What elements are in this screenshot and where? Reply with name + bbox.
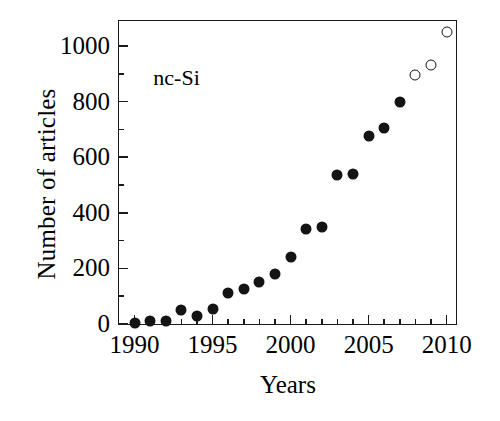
x-axis-minor-tick xyxy=(305,319,307,324)
data-point xyxy=(270,268,281,279)
data-point xyxy=(348,168,359,179)
x-axis-major-tick xyxy=(212,315,214,324)
x-axis-minor-tick xyxy=(181,319,183,324)
y-axis-minor-tick xyxy=(119,184,124,186)
x-axis-minor-tick xyxy=(274,319,276,324)
y-axis-tick-label: 800 xyxy=(73,88,111,116)
x-axis-minor-tick xyxy=(321,319,323,324)
figure-nc-si-articles: Number of articles Years nc-Si 020040060… xyxy=(0,0,500,421)
y-axis-tick-label: 0 xyxy=(98,310,111,338)
x-axis-minor-tick xyxy=(337,319,339,324)
data-point xyxy=(238,284,249,295)
y-axis-major-tick xyxy=(119,323,128,325)
data-point xyxy=(192,311,203,322)
y-axis-major-tick xyxy=(119,212,128,214)
data-point xyxy=(160,316,171,327)
y-axis-tick-label: 1000 xyxy=(60,32,110,60)
y-axis-title: Number of articles xyxy=(33,44,61,324)
y-axis-major-tick xyxy=(119,101,128,103)
data-point xyxy=(301,224,312,235)
x-axis-minor-tick xyxy=(259,319,261,324)
x-axis-major-tick xyxy=(368,315,370,324)
x-axis-minor-tick xyxy=(415,319,417,324)
data-point xyxy=(176,305,187,316)
x-axis-major-tick xyxy=(446,315,448,324)
x-axis-tick-label: 2005 xyxy=(344,331,394,359)
x-axis-tick-label: 1995 xyxy=(188,331,238,359)
plot-area: nc-Si 0200400600800100019901995200020052… xyxy=(118,20,457,325)
x-axis-minor-tick xyxy=(383,319,385,324)
data-point xyxy=(426,60,437,71)
data-point xyxy=(254,276,265,287)
data-point xyxy=(223,288,234,299)
y-axis-tick-label: 200 xyxy=(73,254,111,282)
data-point xyxy=(441,27,452,38)
data-point xyxy=(145,315,156,326)
y-axis-minor-tick xyxy=(119,240,124,242)
y-axis-major-tick xyxy=(119,268,128,270)
data-point xyxy=(379,123,390,134)
x-axis-major-tick xyxy=(290,315,292,324)
y-axis-tick-label: 600 xyxy=(73,143,111,171)
y-axis-major-tick xyxy=(119,156,128,158)
x-axis-minor-tick xyxy=(352,319,354,324)
y-axis-minor-tick xyxy=(119,73,124,75)
data-point xyxy=(285,252,296,263)
data-point xyxy=(316,221,327,232)
x-axis-minor-tick xyxy=(227,319,229,324)
data-point xyxy=(207,303,218,314)
data-point xyxy=(410,70,421,81)
data-point xyxy=(129,317,140,328)
data-point xyxy=(332,170,343,181)
data-point xyxy=(394,96,405,107)
y-axis-minor-tick xyxy=(119,295,124,297)
y-axis-major-tick xyxy=(119,45,128,47)
series-annotation-label: nc-Si xyxy=(153,65,199,91)
x-axis-tick-label: 2010 xyxy=(422,331,472,359)
x-axis-minor-tick xyxy=(399,319,401,324)
x-axis-tick-label: 1990 xyxy=(110,331,160,359)
y-axis-tick-label: 400 xyxy=(73,199,111,227)
y-axis-minor-tick xyxy=(119,129,124,131)
data-point xyxy=(363,131,374,142)
x-axis-tick-label: 2000 xyxy=(266,331,316,359)
x-axis-minor-tick xyxy=(430,319,432,324)
x-axis-minor-tick xyxy=(243,319,245,324)
x-axis-title: Years xyxy=(118,371,458,399)
